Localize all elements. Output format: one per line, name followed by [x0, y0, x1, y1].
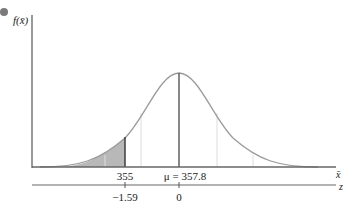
x-axis-label: x̄	[335, 169, 341, 180]
shaded-tail-area	[60, 138, 125, 167]
z-axis-label: z	[338, 181, 343, 192]
z-zero-label: 0	[176, 191, 182, 203]
z-value-label: −1.59	[112, 191, 138, 203]
xbar-value-label: 355	[117, 170, 134, 182]
mean-label: μ = 357.8	[164, 170, 207, 182]
y-axis-label: f(x̄)	[13, 14, 29, 27]
normal-distribution-diagram: f(x̄) x̄ z 355 μ = 357.8 −1.59 0	[0, 0, 359, 211]
bullet-icon	[0, 8, 8, 16]
